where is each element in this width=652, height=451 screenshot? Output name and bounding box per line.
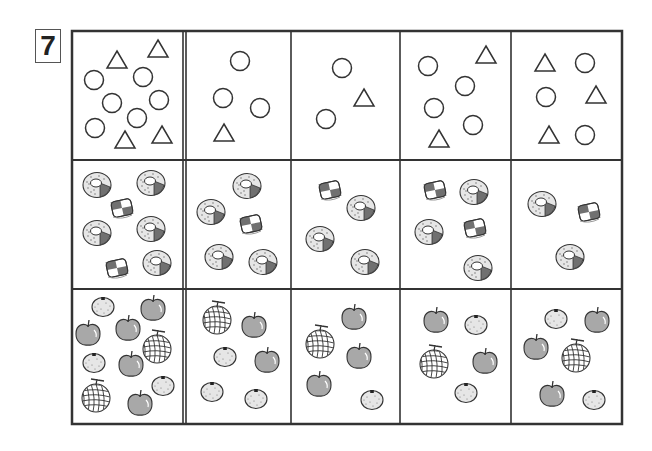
melon-icon — [305, 325, 334, 358]
circle-icon — [231, 52, 250, 71]
candy-icon — [578, 202, 601, 222]
circle-icon — [333, 59, 352, 78]
circle-icon — [150, 91, 169, 110]
circle-icon — [134, 68, 153, 87]
triangle-icon — [586, 86, 606, 103]
orange-icon — [201, 382, 223, 402]
triangle-icon — [148, 40, 168, 57]
orange-icon — [545, 309, 567, 329]
orange-icon — [245, 389, 267, 409]
orange-icon — [83, 353, 105, 373]
donut-icon — [143, 251, 171, 276]
donut-icon — [415, 220, 443, 245]
triangle-icon — [535, 54, 555, 71]
melon-icon — [81, 379, 110, 412]
donut-icon — [83, 221, 111, 246]
circle-icon — [103, 94, 122, 113]
candy-icon — [424, 180, 447, 200]
apple-icon — [76, 320, 100, 345]
melon-icon — [142, 330, 171, 363]
melon-icon — [202, 301, 231, 334]
apple-icon — [347, 343, 371, 368]
donut-icon — [351, 250, 379, 275]
circle-icon — [251, 99, 270, 118]
apple-icon — [116, 315, 140, 340]
triangle-icon — [429, 130, 449, 147]
circle-icon — [419, 57, 438, 76]
apple-icon — [128, 390, 152, 415]
apple-icon — [540, 381, 564, 406]
circle-icon — [576, 54, 595, 73]
orange-icon — [92, 297, 114, 317]
orange-icon — [361, 390, 383, 410]
melon-icon — [419, 345, 448, 378]
donut-icon — [460, 180, 488, 205]
triangle-icon — [214, 124, 234, 141]
circle-icon — [86, 119, 105, 138]
candy-icon — [464, 218, 487, 238]
circle-icon — [85, 71, 104, 90]
circle-icon — [456, 77, 475, 96]
apple-icon — [424, 307, 448, 332]
triangle-icon — [539, 126, 559, 143]
donut-icon — [528, 192, 556, 217]
candy-icon — [240, 214, 263, 234]
donut-icon — [306, 227, 334, 252]
donut-icon — [556, 245, 584, 270]
candy-icon — [111, 198, 134, 218]
apple-icon — [242, 312, 266, 337]
orange-icon — [465, 315, 487, 335]
circle-icon — [317, 110, 336, 129]
triangle-icon — [115, 131, 135, 148]
grid-items — [0, 0, 652, 451]
orange-icon — [152, 376, 174, 396]
orange-icon — [583, 390, 605, 410]
circle-icon — [214, 89, 233, 108]
donut-icon — [205, 245, 233, 270]
orange-icon — [214, 347, 236, 367]
circle-icon — [537, 88, 556, 107]
melon-icon — [561, 339, 590, 372]
apple-icon — [473, 348, 497, 373]
donut-icon — [347, 196, 375, 221]
donut-icon — [249, 250, 277, 275]
orange-icon — [455, 383, 477, 403]
apple-icon — [119, 351, 143, 376]
candy-icon — [319, 180, 342, 200]
triangle-icon — [354, 89, 374, 106]
donut-icon — [137, 217, 165, 242]
donut-icon — [197, 200, 225, 225]
donut-icon — [137, 171, 165, 196]
donut-icon — [464, 256, 492, 281]
apple-icon — [307, 371, 331, 396]
apple-icon — [255, 347, 279, 372]
donut-icon — [233, 174, 261, 199]
circle-icon — [128, 109, 147, 128]
circle-icon — [576, 126, 595, 145]
donut-icon — [83, 173, 111, 198]
triangle-icon — [476, 46, 496, 63]
triangle-icon — [152, 126, 172, 143]
circle-icon — [425, 99, 444, 118]
candy-icon — [106, 258, 129, 278]
circle-icon — [464, 116, 483, 135]
apple-icon — [141, 295, 165, 320]
apple-icon — [585, 307, 609, 332]
triangle-icon — [107, 51, 127, 68]
apple-icon — [342, 304, 366, 329]
apple-icon — [524, 334, 548, 359]
